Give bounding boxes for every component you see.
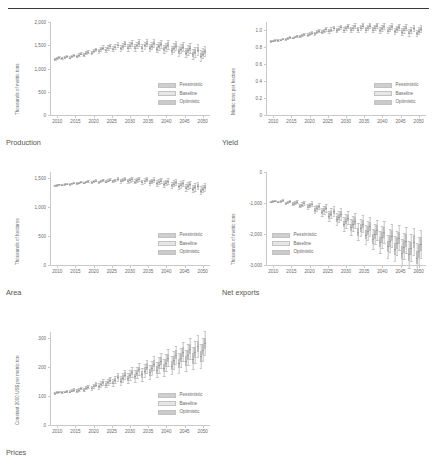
x-tick-label: 2020 bbox=[305, 119, 315, 124]
box-plot-marker bbox=[189, 338, 191, 359]
legend: PessimisticBaselineOptimistic bbox=[272, 232, 320, 258]
y-tick bbox=[264, 64, 267, 65]
median-line bbox=[131, 179, 133, 180]
x-tick-label: 2030 bbox=[125, 269, 135, 274]
median-line bbox=[405, 241, 407, 242]
median-line bbox=[91, 53, 93, 54]
box-plot-marker bbox=[182, 180, 184, 187]
y-tick bbox=[48, 22, 51, 23]
whisker-cap bbox=[160, 353, 163, 354]
x-tick bbox=[185, 115, 186, 118]
whisker-cap bbox=[204, 355, 207, 356]
whisker-cap bbox=[361, 28, 364, 29]
y-tick-label: 1,000 bbox=[6, 204, 46, 209]
whisker-cap bbox=[390, 247, 393, 248]
whisker-cap bbox=[196, 189, 199, 190]
box-plot-marker bbox=[117, 373, 119, 381]
whisker-cap bbox=[158, 373, 161, 374]
y-tick bbox=[48, 425, 51, 426]
box-plot-marker bbox=[167, 349, 169, 366]
whisker-cap bbox=[405, 227, 408, 228]
whisker-cap bbox=[153, 356, 156, 357]
x-tick bbox=[130, 265, 131, 268]
box-plot-marker bbox=[413, 228, 415, 255]
median-line bbox=[160, 44, 162, 45]
median-line bbox=[80, 388, 82, 389]
x-tick bbox=[94, 115, 95, 118]
x-tick-label: 2045 bbox=[179, 119, 189, 124]
median-line bbox=[95, 181, 97, 182]
box-plot-marker bbox=[197, 44, 199, 55]
box-plot-marker bbox=[167, 178, 169, 184]
whisker-cap bbox=[185, 191, 188, 192]
box-plot-marker bbox=[95, 179, 97, 181]
median-line bbox=[282, 200, 284, 201]
median-line bbox=[420, 29, 422, 30]
whisker-cap bbox=[121, 181, 124, 182]
median-line bbox=[102, 48, 104, 49]
median-line bbox=[146, 43, 148, 44]
legend: PessimisticBaselineOptimistic bbox=[158, 232, 206, 258]
box-plot-marker bbox=[138, 177, 140, 182]
whisker-cap bbox=[328, 221, 331, 222]
box-plot-marker bbox=[160, 40, 162, 49]
x-tick-label: 2040 bbox=[377, 119, 387, 124]
box-plot-marker bbox=[413, 25, 415, 32]
box-plot-marker bbox=[274, 200, 276, 202]
box-plot-marker bbox=[102, 45, 104, 49]
y-tick bbox=[48, 236, 51, 237]
whisker-cap bbox=[187, 55, 190, 56]
median-line bbox=[175, 182, 177, 183]
whisker-cap bbox=[129, 380, 132, 381]
whisker-cap bbox=[372, 249, 375, 250]
whisker-cap bbox=[374, 30, 377, 31]
y-tick-label: 0.4 bbox=[222, 79, 262, 84]
whisker-cap bbox=[180, 188, 183, 189]
median-line bbox=[197, 346, 199, 347]
x-tick-label: 2020 bbox=[305, 269, 315, 274]
whisker-cap bbox=[369, 236, 372, 237]
median-line bbox=[153, 43, 155, 44]
whisker-cap bbox=[119, 51, 122, 52]
median-line bbox=[354, 221, 356, 222]
legend-label: Pessimistic bbox=[396, 82, 419, 89]
whisker-cap bbox=[340, 208, 343, 209]
x-tick bbox=[273, 265, 274, 268]
y-tick bbox=[48, 338, 51, 339]
median-line bbox=[109, 46, 111, 47]
whisker-cap bbox=[131, 367, 134, 368]
box-plot-marker bbox=[146, 39, 148, 47]
x-tick bbox=[94, 265, 95, 268]
median-line bbox=[76, 56, 78, 57]
whisker-cap bbox=[376, 240, 379, 241]
whisker-cap bbox=[182, 342, 185, 343]
whisker-cap bbox=[145, 181, 148, 182]
median-line bbox=[413, 242, 415, 243]
x-tick-label: 2050 bbox=[414, 119, 424, 124]
box-plot-marker bbox=[146, 177, 148, 182]
whisker-cap bbox=[138, 181, 141, 182]
box-plot-marker bbox=[58, 391, 60, 393]
box-plot-marker bbox=[369, 217, 371, 236]
whisker-cap bbox=[151, 375, 154, 376]
median-line bbox=[146, 367, 148, 368]
whisker-cap bbox=[417, 34, 420, 35]
whisker-cap bbox=[189, 43, 192, 44]
whisker-cap bbox=[196, 335, 199, 336]
whisker-cap bbox=[148, 379, 151, 380]
box-plot-marker bbox=[182, 342, 184, 362]
y-tick-label: 0 bbox=[222, 113, 262, 118]
whisker-cap bbox=[136, 48, 139, 49]
x-tick-label: 2010 bbox=[52, 119, 62, 124]
whisker-cap bbox=[396, 255, 399, 256]
box-plot-marker bbox=[182, 42, 184, 52]
whisker-cap bbox=[383, 221, 386, 222]
median-line bbox=[167, 181, 169, 182]
median-line bbox=[325, 29, 327, 30]
whisker-cap bbox=[105, 52, 108, 53]
whisker-cap bbox=[398, 225, 401, 226]
whisker-cap bbox=[354, 213, 357, 214]
y-tick-label: 0 bbox=[6, 423, 46, 428]
median-line bbox=[124, 375, 126, 376]
median-line bbox=[303, 203, 305, 204]
